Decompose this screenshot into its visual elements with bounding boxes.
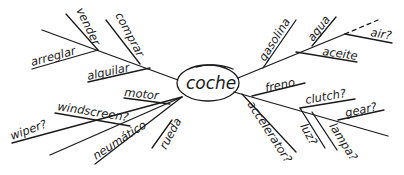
label-rueda: rueda [156, 115, 184, 151]
label-freno: freno [264, 75, 296, 95]
center-node: coche [177, 65, 239, 101]
branch-left-lower: motor windscreen? wiper? neumático rueda [8, 85, 184, 164]
center-label: coche [186, 73, 236, 93]
label-agua: agua [304, 13, 333, 44]
label-gear: gear? [344, 100, 378, 120]
mind-map-diagram: coche arreglar vender alquilar comprar m… [0, 0, 404, 175]
label-alquilar: alquilar [86, 60, 132, 83]
label-aceite: aceite [322, 44, 359, 63]
branch-right-upper: gasolina agua aceite air? [238, 13, 393, 78]
label-motor: motor [124, 85, 161, 103]
label-arreglar: arreglar [29, 43, 78, 69]
label-luz: luz? [297, 121, 320, 148]
branch-left-upper: arreglar vender alquilar comprar [29, 5, 178, 83]
label-gasolina: gasolina [256, 15, 293, 63]
branch-right-lower: freno clutch? gear? accelerator? luz? la… [234, 75, 388, 165]
label-accelerator: accelerator? [244, 98, 295, 165]
